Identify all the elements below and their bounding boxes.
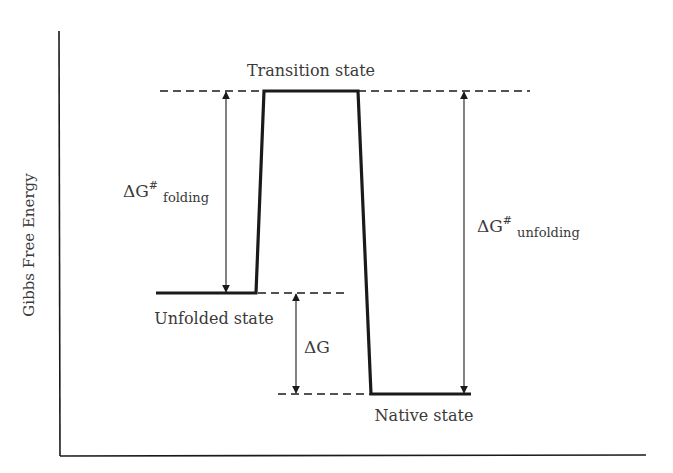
axes (59, 31, 646, 456)
dg-unfolding-label: ΔG#unfolding (477, 214, 580, 240)
dg-unfolding-subscript: unfolding (517, 225, 580, 240)
dg-label: ΔG (304, 337, 330, 357)
transition-state-label: Transition state (247, 61, 375, 80)
svg-text:ΔG#folding: ΔG#folding (123, 179, 209, 205)
svg-text:ΔG#unfolding: ΔG#unfolding (477, 214, 580, 240)
dg-unfolding-symbol: ΔG (477, 216, 503, 236)
dg-folding-symbol: ΔG (123, 181, 149, 201)
y-axis (59, 31, 60, 456)
unfolded-state-label: Unfolded state (154, 309, 274, 328)
reference-lines (160, 91, 530, 394)
dg-folding-label: ΔG#folding (123, 179, 209, 205)
dg-folding-superscript: # (149, 179, 158, 192)
x-axis (60, 455, 646, 456)
dg-unfolding-superscript: # (503, 214, 512, 227)
native-state-label: Native state (375, 406, 474, 425)
y-axis-title: Gibbs Free Energy (20, 173, 38, 317)
energy-diagram: Gibbs Free Energy Transition state Unfol… (0, 0, 673, 473)
dg-folding-subscript: folding (163, 190, 209, 205)
